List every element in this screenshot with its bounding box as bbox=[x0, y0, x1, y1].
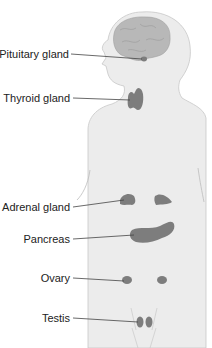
label-pituitary: Pituitary gland bbox=[0, 48, 69, 60]
body-silhouette bbox=[88, 12, 206, 348]
label-adrenal: Adrenal gland bbox=[2, 201, 70, 213]
label-pancreas: Pancreas bbox=[24, 233, 71, 245]
label-thyroid: Thyroid gland bbox=[3, 92, 70, 104]
label-testis: Testis bbox=[42, 312, 71, 324]
brain bbox=[113, 17, 170, 61]
label-ovary: Ovary bbox=[41, 272, 71, 284]
ovary-right bbox=[157, 276, 167, 284]
ovary-left bbox=[122, 276, 132, 284]
testis-right bbox=[146, 317, 153, 328]
endocrine-diagram: Pituitary gland Thyroid gland Adrenal gl… bbox=[0, 0, 212, 348]
